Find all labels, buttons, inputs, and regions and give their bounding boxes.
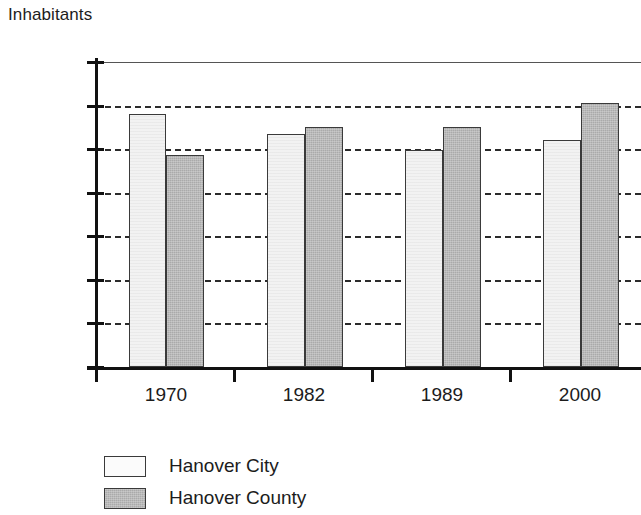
legend-item-hanover-city[interactable]: Hanover City [104, 450, 404, 482]
x-axis-label-2000: 2000 [559, 384, 601, 406]
chart-legend: Hanover City Hanover County [104, 450, 404, 514]
bar-2000-hanover-city[interactable] [543, 140, 581, 367]
legend-item-hanover-county[interactable]: Hanover County [104, 482, 404, 514]
bar-2000-hanover-county[interactable] [581, 103, 619, 367]
x-tick-mark-3 [509, 367, 512, 382]
legend-swatch-hanover-county [104, 488, 146, 509]
bar-1970-hanover-city[interactable] [129, 114, 166, 367]
x-axis-line [87, 367, 641, 370]
chart-title: Inhabitants [8, 5, 92, 25]
legend-label-hanover-county: Hanover County [169, 487, 306, 509]
x-tick-mark-0 [95, 367, 98, 382]
plot-area: 700,000 600,000 500,000 400,000 300,000 … [95, 62, 641, 367]
bar-1982-hanover-county[interactable] [305, 127, 343, 367]
legend-swatch-hanover-city [104, 456, 146, 477]
bar-1970-hanover-county[interactable] [166, 155, 204, 367]
inhabitants-bar-chart: Inhabitants 700,000 600,000 500,000 400,… [0, 0, 641, 515]
legend-label-hanover-city: Hanover City [169, 455, 279, 477]
bar-1989-hanover-city[interactable] [405, 150, 443, 367]
bar-1982-hanover-city[interactable] [267, 134, 305, 367]
x-tick-mark-2 [371, 367, 374, 382]
x-axis-label-1989: 1989 [421, 384, 463, 406]
bar-1989-hanover-county[interactable] [443, 127, 481, 368]
x-axis-label-1982: 1982 [283, 384, 325, 406]
bar-series-container [95, 62, 641, 367]
x-axis-label-1970: 1970 [145, 384, 187, 406]
x-tick-mark-1 [233, 367, 236, 382]
